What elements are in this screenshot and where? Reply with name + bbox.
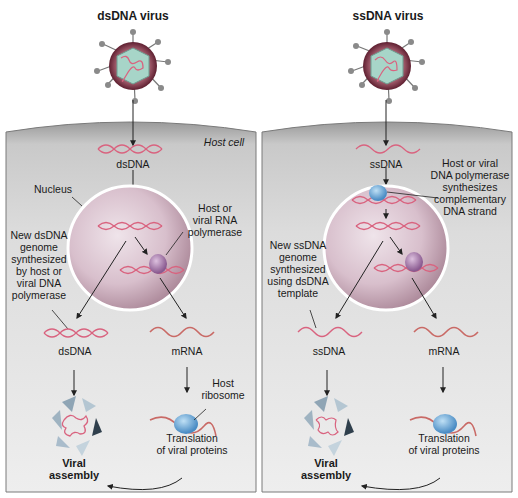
mrna-label: mRNA xyxy=(162,345,212,357)
entry-genome-label: ssDNA xyxy=(361,158,411,170)
mrna-label: mRNA xyxy=(419,345,469,357)
replication-label: New dsDNA genome synthesized by host or … xyxy=(4,229,74,301)
progeny-genome-label: ssDNA xyxy=(304,345,354,357)
host-ribosome-icon xyxy=(174,414,198,434)
rna-polymerase-icon xyxy=(149,254,167,274)
dsdna-panel-title: dsDNA virus xyxy=(83,10,183,22)
assembly-label: Viral assembly xyxy=(42,457,106,481)
nucleus-label: Nucleus xyxy=(28,183,78,195)
nucleus xyxy=(68,186,192,310)
translation-label: Translation of viral proteins xyxy=(394,432,494,456)
progeny-genome-label: dsDNA xyxy=(50,345,100,357)
replication-label: New ssDNA genome synthesized using dsDNA… xyxy=(262,239,334,299)
ssdna-virion-icon xyxy=(348,29,425,104)
host-ribosome-icon xyxy=(433,414,457,434)
ribosome-label: Host ribosome xyxy=(198,377,248,401)
rna-polymerase-label: Host or viral RNA polymerase xyxy=(180,202,250,238)
entry-genome-label: dsDNA xyxy=(108,158,158,170)
dsdna-virion-icon xyxy=(94,29,171,104)
assembly-label: Viral assembly xyxy=(294,457,358,481)
dna-polymerase-icon xyxy=(369,185,387,201)
host-cell-label: Host cell xyxy=(196,136,252,148)
ssdna-panel-title: ssDNA virus xyxy=(338,10,438,22)
viral-replication-diagram: dsDNA virus Host cell dsDNA Nucleus Host… xyxy=(0,0,518,498)
rna-polymerase-icon xyxy=(405,252,423,272)
dna-polymerase-label: Host or viral DNA polymerase synthesizes… xyxy=(424,157,516,217)
translation-label: Translation of viral proteins xyxy=(142,432,242,456)
